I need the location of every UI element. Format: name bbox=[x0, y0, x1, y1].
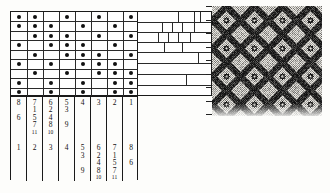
tieup-cell-divider bbox=[164, 42, 165, 52]
heddle-number: 3 bbox=[91, 99, 106, 107]
threading-dot bbox=[49, 24, 53, 28]
tieup-cell-divider bbox=[190, 32, 191, 42]
tieup-cell-divider bbox=[168, 32, 169, 42]
threading-grid-vline bbox=[43, 12, 44, 97]
threading-dot bbox=[129, 15, 133, 19]
threading-dot bbox=[49, 34, 53, 38]
threading-dot bbox=[129, 81, 133, 85]
heddle-number: 3 bbox=[43, 144, 58, 152]
threading-dot bbox=[49, 90, 53, 94]
threading-grid-hline bbox=[11, 78, 139, 79]
fabric-weave-canvas bbox=[212, 6, 322, 116]
threading-dot bbox=[17, 81, 21, 85]
heddle-number: 2 bbox=[107, 99, 122, 107]
threading-dot bbox=[65, 15, 69, 19]
heddle-number-columns: 8617157112624810353944539362481027157111… bbox=[10, 96, 138, 180]
heddle-number: 2 bbox=[27, 144, 42, 152]
heddle-number: 3 bbox=[59, 106, 74, 114]
tieup-cell-divider bbox=[178, 32, 179, 42]
threading-grid-hline bbox=[11, 50, 139, 51]
threading-grid-hline bbox=[11, 88, 139, 89]
tieup-row-divider bbox=[138, 42, 212, 43]
threading-dot bbox=[97, 34, 101, 38]
heddle-number: 9 bbox=[75, 167, 90, 175]
threading-grid-hline bbox=[11, 69, 139, 70]
threading-dot bbox=[129, 71, 133, 75]
heddle-number: 11 bbox=[107, 174, 122, 180]
threading-dot bbox=[129, 53, 133, 57]
threading-grid-hline bbox=[11, 59, 139, 60]
tieup-row-divider bbox=[138, 63, 212, 64]
heddle-number: 1 bbox=[123, 99, 139, 107]
threading-dot bbox=[17, 15, 21, 19]
threading-dot bbox=[81, 43, 85, 47]
threading-grid bbox=[10, 11, 138, 96]
tieup-cell-divider bbox=[178, 12, 179, 22]
tieup-row-divider bbox=[138, 85, 212, 86]
threading-dot bbox=[49, 62, 53, 66]
threading-dot bbox=[17, 43, 21, 47]
threading-dot bbox=[65, 43, 69, 47]
weaving-draft-figure: 8617157112624810353944539362481027157111… bbox=[0, 0, 330, 193]
heddle-number: 6 bbox=[11, 114, 26, 122]
tieup-cell-divider bbox=[200, 12, 201, 22]
threading-dot bbox=[129, 90, 133, 94]
threading-grid-vline bbox=[107, 12, 108, 97]
threading-dot bbox=[113, 81, 117, 85]
threading-dot bbox=[113, 71, 117, 75]
tieup-cell-divider bbox=[162, 22, 163, 32]
fabric-sample bbox=[212, 6, 322, 116]
tieup-cell-divider bbox=[158, 32, 159, 42]
heddle-number-column: 2715711 bbox=[107, 97, 123, 181]
threading-dot bbox=[97, 53, 101, 57]
heddle-number: 4 bbox=[75, 99, 90, 107]
heddle-number: 3 bbox=[75, 152, 90, 160]
threading-grid-vline bbox=[75, 12, 76, 97]
heddle-number-column: 861 bbox=[11, 97, 27, 181]
threading-grid-hline bbox=[11, 21, 139, 22]
heddle-number-column: 4539 bbox=[75, 97, 91, 181]
tieup-cell-divider bbox=[172, 22, 173, 32]
tieup-block-diagram bbox=[138, 11, 212, 96]
threading-dot bbox=[33, 53, 37, 57]
threading-dot bbox=[33, 15, 37, 19]
threading-dot bbox=[49, 81, 53, 85]
heddle-number: 10 bbox=[43, 129, 58, 135]
threading-dot bbox=[81, 53, 85, 57]
tieup-cell-divider bbox=[198, 52, 199, 63]
threading-dot bbox=[81, 90, 85, 94]
threading-dot bbox=[65, 53, 69, 57]
threading-dot bbox=[65, 71, 69, 75]
threading-dot bbox=[17, 24, 21, 28]
threading-dot bbox=[33, 34, 37, 38]
threading-dot bbox=[33, 24, 37, 28]
threading-dot bbox=[81, 62, 85, 66]
threading-dot bbox=[129, 34, 133, 38]
threading-dot bbox=[97, 15, 101, 19]
threading-grid-vline bbox=[59, 12, 60, 97]
tieup-row-divider bbox=[138, 32, 212, 33]
threading-dot bbox=[17, 62, 21, 66]
threading-dot bbox=[17, 90, 21, 94]
threading-dot bbox=[113, 62, 117, 66]
heddle-number-column: 6248103 bbox=[43, 97, 59, 181]
heddle-number-column: 3624810 bbox=[91, 97, 107, 181]
threading-dot bbox=[81, 24, 85, 28]
heddle-number-column: 7157112 bbox=[27, 97, 43, 181]
tieup-row-divider bbox=[138, 52, 212, 53]
threading-dot bbox=[97, 62, 101, 66]
tieup-row-divider bbox=[138, 22, 212, 23]
threading-grid-vline bbox=[27, 12, 28, 97]
threading-dot bbox=[65, 34, 69, 38]
heddle-number: 6 bbox=[123, 159, 139, 167]
heddle-number: 4 bbox=[59, 144, 74, 152]
threading-grid-vline bbox=[91, 12, 92, 97]
threading-grid-hline bbox=[11, 31, 139, 32]
heddle-number: 1 bbox=[11, 144, 26, 152]
tieup-row-divider bbox=[138, 74, 212, 75]
threading-grid-vline bbox=[123, 12, 124, 97]
tieup-cell-divider bbox=[182, 42, 183, 52]
threading-dot bbox=[97, 71, 101, 75]
heddle-number: 11 bbox=[27, 129, 42, 135]
tieup-cell-divider bbox=[182, 22, 183, 32]
